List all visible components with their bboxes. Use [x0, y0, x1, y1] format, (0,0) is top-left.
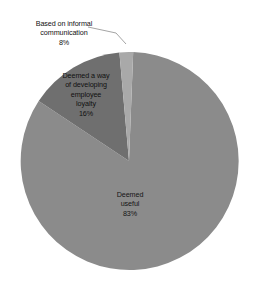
pie-chart-graphic: [0, 0, 254, 299]
pie-chart-figure: Based on informal communication 8% Deeme…: [0, 0, 254, 299]
leader-line-informal-communication: [88, 27, 126, 44]
